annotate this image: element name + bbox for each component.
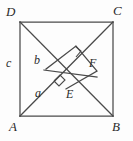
vertex-label-C: C: [113, 4, 122, 17]
point-label-F: F: [89, 57, 96, 69]
point-label-E: E: [66, 88, 73, 100]
segment-label-b: b: [34, 54, 40, 66]
vertex-label-D: D: [6, 5, 15, 18]
vertex-label-B: B: [112, 120, 120, 133]
segment-label-c: c: [6, 57, 11, 69]
segment-label-a: a: [35, 87, 41, 99]
vertex-label-A: A: [9, 120, 17, 133]
geometry-figure: D C A B E F c b a: [0, 0, 133, 141]
